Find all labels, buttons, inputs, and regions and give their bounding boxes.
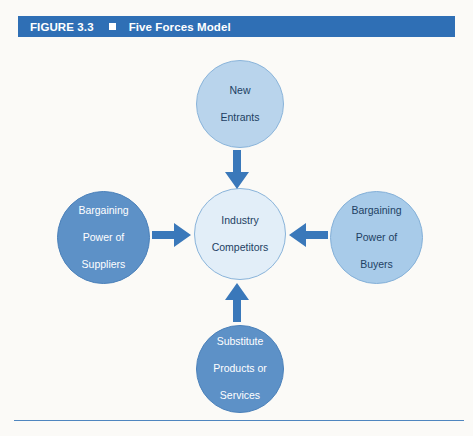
figure-title: Five Forces Model xyxy=(129,21,231,33)
node-bargaining-power-of-suppliers: BargainingPower ofSuppliers xyxy=(57,191,150,284)
arrow-up-icon xyxy=(224,282,250,322)
node-line-1: Substitute xyxy=(207,335,273,348)
node-industry-label: IndustryCompetitors xyxy=(200,214,281,254)
figure-title-bar: FIGURE 3.3 Five Forces Model xyxy=(18,16,455,37)
square-bullet-icon xyxy=(109,23,116,30)
node-line-2: Power of xyxy=(345,231,407,244)
node-suppliers-label: BargainingPower ofSuppliers xyxy=(66,204,140,271)
arrow-down-icon xyxy=(224,150,250,190)
node-industry-competitors: IndustryCompetitors xyxy=(194,188,286,280)
node-line-3: Services xyxy=(207,389,273,402)
node-line-3: Buyers xyxy=(345,258,407,271)
five-forces-diagram: NewEntrants BargainingPower ofSuppliers … xyxy=(0,40,473,418)
node-buyers-label: BargainingPower ofBuyers xyxy=(339,204,413,271)
node-line-1: Bargaining xyxy=(72,204,134,217)
node-substitute-products-or-services: SubstituteProducts orServices xyxy=(196,325,284,413)
node-line-3: Suppliers xyxy=(72,258,134,271)
arrow-right-icon xyxy=(152,222,192,248)
node-line-1: Industry xyxy=(206,214,275,227)
node-substitutes-label: SubstituteProducts orServices xyxy=(201,335,279,402)
node-line-1: Bargaining xyxy=(345,204,407,217)
node-line-2: Entrants xyxy=(214,111,265,124)
node-new-entrants-label: NewEntrants xyxy=(208,84,271,124)
figure-number: FIGURE 3.3 xyxy=(30,21,94,33)
node-new-entrants: NewEntrants xyxy=(196,60,284,148)
figure-container: FIGURE 3.3 Five Forces Model NewEntrants… xyxy=(0,0,473,436)
node-line-2: Products or xyxy=(207,362,273,375)
figure-bottom-rule xyxy=(14,420,464,421)
node-bargaining-power-of-buyers: BargainingPower ofBuyers xyxy=(330,191,423,284)
node-line-1: New xyxy=(214,84,265,97)
arrow-left-icon xyxy=(288,222,328,248)
node-line-2: Competitors xyxy=(206,241,275,254)
node-line-2: Power of xyxy=(72,231,134,244)
